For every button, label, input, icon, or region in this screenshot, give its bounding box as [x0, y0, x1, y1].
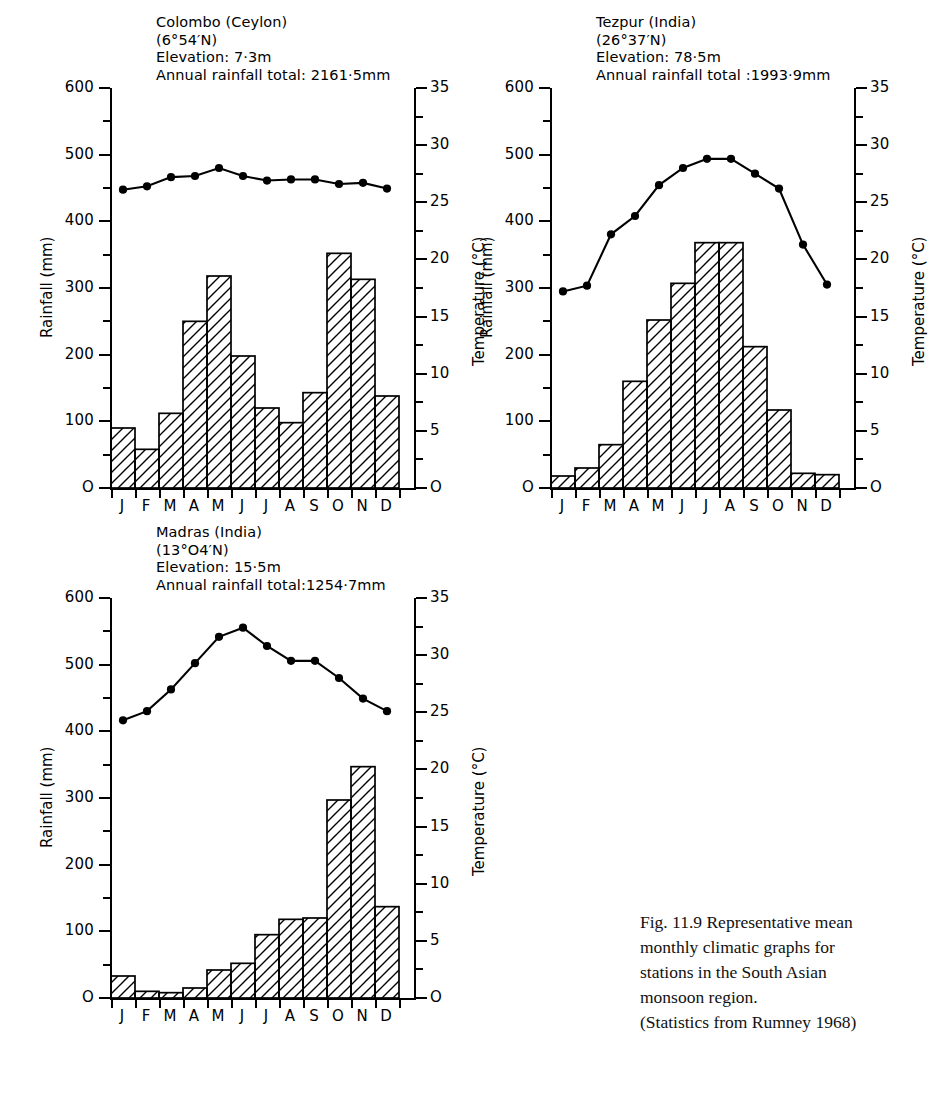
rainfall-bar — [135, 449, 159, 488]
rainfall-bar — [255, 935, 279, 998]
temperature-point — [703, 155, 711, 163]
left-axis-label: 400 — [480, 211, 534, 229]
temperature-line — [123, 628, 387, 721]
temperature-line — [123, 168, 387, 190]
right-axis-label: 30 — [430, 645, 450, 663]
right-axis-label: 20 — [870, 249, 890, 267]
left-axis-tick — [539, 154, 550, 156]
station-annual-rainfall: Annual rainfall total: 2161·5mm — [156, 67, 390, 85]
temperature-point — [383, 184, 391, 192]
temperature-point — [215, 633, 223, 641]
left-axis-label: O — [480, 478, 534, 496]
left-axis-tick — [99, 354, 110, 356]
station-elevation: Elevation: 15·5m — [156, 559, 386, 577]
rainfall-bar — [719, 243, 743, 488]
station-coordinates: (26°37′N) — [596, 32, 830, 50]
left-axis-tick — [539, 287, 550, 289]
left-axis-title: Rainfall (mm) — [38, 237, 56, 338]
month-label-m-2: M — [158, 497, 182, 515]
left-axis-tick — [103, 120, 110, 122]
rainfall-bar — [159, 413, 183, 488]
temperature-point — [799, 240, 807, 248]
month-label-a-3: A — [182, 1007, 206, 1025]
month-label-m-4: M — [646, 497, 670, 515]
station-name: Colombo (Ceylon) — [156, 14, 390, 32]
station-name: Madras (India) — [156, 524, 386, 542]
month-label-m-4: M — [206, 497, 230, 515]
left-axis-tick — [543, 120, 550, 122]
rainfall-bar — [623, 381, 647, 488]
caption-line-3: stations in the South Asian — [640, 962, 827, 982]
right-axis-label: 25 — [430, 702, 450, 720]
right-axis-title: Temperature (°C) — [470, 747, 488, 876]
temperature-point — [287, 657, 295, 665]
rainfall-bar — [255, 408, 279, 488]
temperature-point — [239, 172, 247, 180]
temperature-point — [215, 164, 223, 172]
temperature-point — [311, 175, 319, 183]
month-label-f-1: F — [134, 497, 158, 515]
month-label-m-2: M — [158, 1007, 182, 1025]
month-label-m-2: M — [598, 497, 622, 515]
station-elevation: Elevation: 7·3m — [156, 49, 390, 67]
left-axis-tick — [543, 187, 550, 189]
rainfall-bars — [551, 243, 839, 488]
rainfall-bar — [303, 918, 327, 998]
rainfall-bar — [207, 970, 231, 998]
rainfall-bar — [767, 410, 791, 488]
month-label-f-1: F — [134, 1007, 158, 1025]
temperature-point — [191, 659, 199, 667]
month-label-j-6: J — [254, 1007, 278, 1025]
month-label-o-9: O — [766, 497, 790, 515]
left-axis-tick — [539, 420, 550, 422]
left-axis-tick — [99, 864, 110, 866]
left-axis-tick — [103, 964, 110, 966]
left-axis-label: O — [40, 988, 94, 1006]
month-tick — [399, 1000, 401, 1008]
station-coordinates: (6°54′N) — [156, 32, 390, 50]
month-label-j-0: J — [110, 1007, 134, 1025]
temperature-point — [607, 230, 615, 238]
chart-header-colombo: Colombo (Ceylon)(6°54′N)Elevation: 7·3mA… — [156, 14, 390, 84]
station-annual-rainfall: Annual rainfall total:1254·7mm — [156, 577, 386, 595]
left-axis-tick — [543, 454, 550, 456]
left-axis-label: 400 — [40, 721, 94, 739]
rainfall-bar — [207, 276, 231, 488]
left-axis-tick — [543, 387, 550, 389]
station-elevation: Elevation: 78·5m — [596, 49, 830, 67]
rainfall-bars — [111, 767, 399, 998]
left-axis-label: 200 — [40, 345, 94, 363]
temperature-point — [311, 657, 319, 665]
right-axis-label: 10 — [430, 364, 450, 382]
right-axis-label: 35 — [870, 78, 890, 96]
left-axis-tick — [103, 630, 110, 632]
temperature-point — [239, 624, 247, 632]
rainfall-bar — [743, 347, 767, 488]
month-label-a-7: A — [278, 1007, 302, 1025]
left-axis-tick — [99, 930, 110, 932]
figure-caption: Fig. 11.9 Representative meanmonthly cli… — [640, 910, 928, 1035]
temperature-point — [167, 685, 175, 693]
left-axis-label: 600 — [40, 588, 94, 606]
temperature-point — [583, 282, 591, 290]
left-axis-label: 200 — [40, 855, 94, 873]
temperature-point — [191, 172, 199, 180]
temperature-point — [559, 287, 567, 295]
temperature-point — [823, 280, 831, 288]
station-annual-rainfall: Annual rainfall total :1993·9mm — [596, 67, 830, 85]
station-name: Tezpur (India) — [596, 14, 830, 32]
chart-header-madras: Madras (India)(13°O4′N)Elevation: 15·5mA… — [156, 524, 386, 594]
left-axis-tick — [103, 187, 110, 189]
right-axis-label: 15 — [430, 307, 450, 325]
left-axis-label: 500 — [480, 145, 534, 163]
left-axis-title: Rainfall (mm) — [478, 237, 496, 338]
temperature-point — [727, 155, 735, 163]
left-axis-tick — [103, 764, 110, 766]
month-label-d-11: D — [814, 497, 838, 515]
rainfall-bar — [791, 473, 815, 488]
month-label-j-0: J — [550, 497, 574, 515]
caption-line-2: monthly climatic graphs for — [640, 937, 835, 957]
month-label-j-5: J — [670, 497, 694, 515]
rainfall-bars — [111, 253, 399, 488]
rainfall-bar — [647, 320, 671, 488]
